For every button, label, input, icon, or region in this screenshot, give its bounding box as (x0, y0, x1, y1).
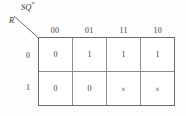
row-label-0: 0 (22, 51, 34, 60)
kmap-cell-r1-c10: × (140, 72, 174, 105)
column-header-11: 11 (107, 24, 141, 37)
kmap-row-1: 0 0 × × (39, 71, 174, 105)
kmap-cell-r1-c01: 0 (72, 72, 106, 105)
column-variable-label: SQ* (21, 1, 35, 12)
column-header-00: 00 (38, 24, 72, 37)
row-label-1: 1 (22, 83, 34, 92)
kmap-corner-label: SQ* R (0, 0, 40, 40)
row-variable-label: R (9, 15, 14, 25)
kmap-cell-r0-c11: 1 (106, 38, 140, 71)
karnaugh-map-diagram: SQ* R 00 01 11 10 0 1 0 1 1 1 0 0 × × (0, 0, 186, 116)
column-header-01: 01 (72, 24, 106, 37)
kmap-cell-r1-c00: 0 (39, 72, 72, 105)
column-variable-superscript: * (32, 1, 35, 7)
kmap-cell-r0-c00: 0 (39, 38, 72, 71)
kmap-cell-r0-c01: 1 (72, 38, 106, 71)
column-header-row: 00 01 11 10 (38, 24, 175, 37)
kmap-row-0: 0 1 1 1 (39, 38, 174, 71)
kmap-grid: 0 1 1 1 0 0 × × (38, 37, 175, 106)
kmap-cell-r0-c10: 1 (140, 38, 174, 71)
column-header-10: 10 (141, 24, 175, 37)
kmap-cell-r1-c11: × (106, 72, 140, 105)
column-variable-name: SQ (21, 2, 32, 12)
